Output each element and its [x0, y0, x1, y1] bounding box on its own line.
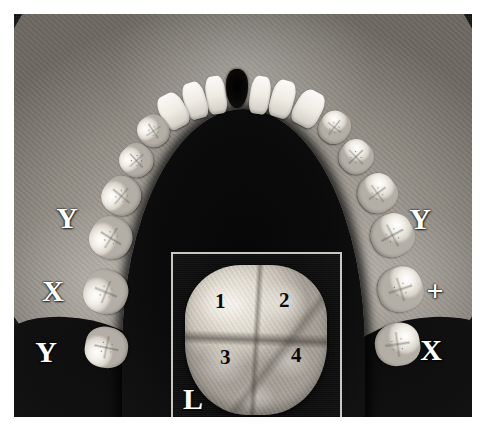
figure-plate: YXYY+X 1234 L — [0, 0, 486, 430]
cusp-number-4: 4 — [291, 345, 302, 366]
annotation-left-2-x: X — [42, 276, 64, 306]
inset-side-label: L — [183, 384, 203, 414]
annotation-right-1-y: Y — [409, 204, 431, 234]
molar-fissure-grooves — [185, 265, 327, 415]
molar-inset-panel: 1234 L — [171, 252, 342, 417]
cusp-number-2: 2 — [279, 290, 290, 311]
cusp-number-3: 3 — [220, 347, 231, 368]
molar-crown — [185, 265, 327, 415]
annotation-left-3-y: Y — [35, 337, 57, 367]
mandible-photograph: YXYY+X 1234 L — [14, 14, 472, 417]
annotation-right-2-plus: + — [424, 276, 446, 306]
cusp-number-1: 1 — [215, 291, 226, 312]
annotation-left-1-y: Y — [56, 203, 78, 233]
annotation-right-3-x: X — [420, 335, 442, 365]
